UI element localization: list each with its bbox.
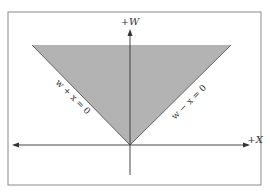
x-axis-label: +X	[247, 134, 263, 145]
w-axis-label: +W	[121, 16, 140, 27]
light-cone-diagram: +W +X w + x = 0 w − x = 0	[0, 0, 269, 191]
diagram-container: +W +X w + x = 0 w − x = 0	[0, 0, 269, 191]
